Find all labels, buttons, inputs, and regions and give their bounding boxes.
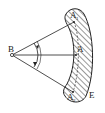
ray-b-a2 [12,55,73,92]
point-a-marker [75,54,77,56]
label-a: A [77,44,84,54]
point-a1-marker [73,21,75,23]
angle-arc-upper [34,43,38,55]
diagram-canvas: B A 1 A A 2 E [0,0,105,113]
ray-b-a1 [12,22,74,55]
label-b: B [8,44,14,54]
label-e: E [89,90,95,100]
arrow-down-icon [33,62,37,66]
